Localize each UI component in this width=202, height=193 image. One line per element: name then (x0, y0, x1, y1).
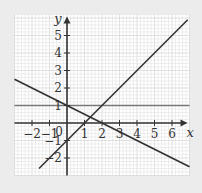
x-tick-label: 6 (168, 127, 176, 141)
origin-label: 0 (55, 125, 63, 139)
y-tick-label: 2 (54, 81, 62, 95)
x-tick-label: 3 (116, 127, 124, 141)
graph-canvas: −2−112345654321−1−20xy (0, 0, 202, 193)
x-tick-label: 2 (98, 127, 106, 141)
x-tick-label: −2 (23, 127, 41, 141)
x-tick-label: 5 (151, 127, 159, 141)
y-axis-label: y (53, 11, 62, 26)
y-tick-label: −2 (44, 151, 62, 165)
x-tick-label: 1 (81, 127, 89, 141)
y-tick-label: 4 (54, 46, 62, 60)
y-tick-label: 3 (54, 64, 62, 78)
x-tick-label: 4 (133, 127, 141, 141)
y-tick-label: 1 (54, 99, 62, 113)
y-tick-label: 5 (54, 29, 62, 43)
x-axis-label: x (187, 125, 195, 140)
